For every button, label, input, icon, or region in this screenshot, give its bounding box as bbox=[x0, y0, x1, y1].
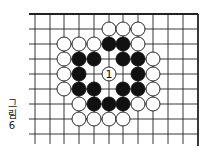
go-board-diagram: 1 bbox=[0, 0, 211, 158]
white-stone bbox=[146, 97, 160, 111]
black-stone bbox=[72, 52, 86, 66]
white-stone bbox=[146, 82, 160, 96]
black-stone bbox=[131, 82, 145, 96]
caption-char-2: 림 bbox=[5, 109, 19, 120]
white-stone bbox=[131, 37, 145, 51]
black-stone bbox=[102, 37, 116, 51]
white-stone bbox=[72, 112, 86, 126]
white-stone bbox=[146, 52, 160, 66]
black-stone bbox=[131, 67, 145, 81]
white-stone bbox=[57, 67, 71, 81]
black-stone bbox=[72, 82, 86, 96]
black-stone bbox=[116, 52, 130, 66]
black-stone bbox=[116, 37, 130, 51]
white-stone bbox=[57, 52, 71, 66]
white-stone bbox=[72, 97, 86, 111]
black-stone bbox=[87, 52, 101, 66]
white-stone bbox=[102, 112, 116, 126]
stones-layer: 1 bbox=[57, 22, 160, 126]
white-stone bbox=[87, 112, 101, 126]
white-stone bbox=[87, 37, 101, 51]
black-stone bbox=[116, 97, 130, 111]
black-stone bbox=[87, 82, 101, 96]
caption-number: 6 bbox=[5, 120, 19, 131]
black-stone bbox=[87, 97, 101, 111]
black-stone bbox=[72, 67, 86, 81]
black-stone bbox=[102, 97, 116, 111]
move-number-label: 1 bbox=[106, 68, 113, 81]
caption-char-1: 그 bbox=[5, 98, 19, 109]
white-stone bbox=[72, 37, 86, 51]
white-stone bbox=[146, 67, 160, 81]
white-stone bbox=[102, 22, 116, 36]
white-stone bbox=[131, 97, 145, 111]
white-stone bbox=[116, 112, 130, 126]
figure-caption: 그 림 6 bbox=[5, 98, 19, 131]
white-stone bbox=[57, 82, 71, 96]
white-stone bbox=[131, 22, 145, 36]
white-stone bbox=[57, 37, 71, 51]
black-stone bbox=[131, 52, 145, 66]
white-stone bbox=[116, 22, 130, 36]
black-stone bbox=[116, 82, 130, 96]
